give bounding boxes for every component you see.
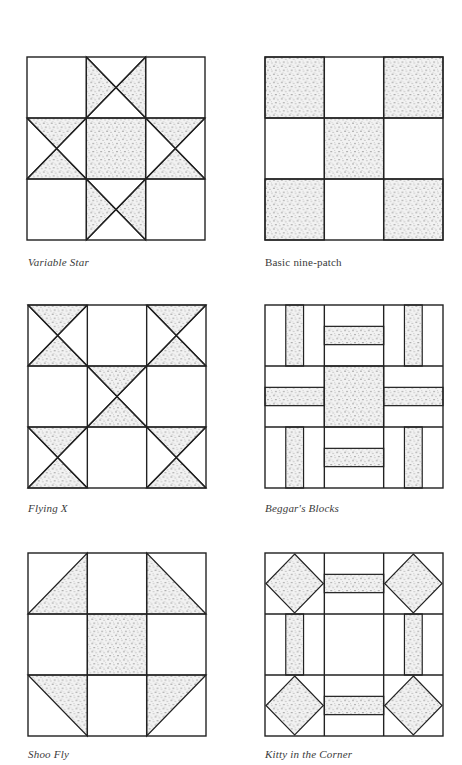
caption-flying-x: Flying X <box>28 502 68 514</box>
quilt-block-basic-nine-patch <box>265 57 443 240</box>
caption-basic-nine-patch: Basic nine-patch <box>265 256 342 268</box>
kitty-in-the-corner-diagram <box>265 553 443 736</box>
quilt-block-kitty-in-the-corner <box>265 553 443 736</box>
basic-nine-patch-diagram <box>265 57 443 240</box>
quilt-block-variable-star <box>27 57 205 240</box>
flying-x-diagram <box>28 305 206 488</box>
shoo-fly-diagram <box>28 553 206 736</box>
variable-star-diagram <box>27 57 205 240</box>
beggars-blocks-diagram <box>265 305 443 488</box>
quilt-block-beggars-blocks <box>265 305 443 488</box>
caption-beggars-blocks: Beggar's Blocks <box>265 502 339 514</box>
caption-variable-star: Variable Star <box>28 256 89 268</box>
quilt-block-flying-x <box>28 305 206 488</box>
caption-kitty-in-the-corner: Kitty in the Corner <box>265 748 352 760</box>
caption-shoo-fly: Shoo Fly <box>28 748 69 760</box>
quilt-block-shoo-fly <box>28 553 206 736</box>
